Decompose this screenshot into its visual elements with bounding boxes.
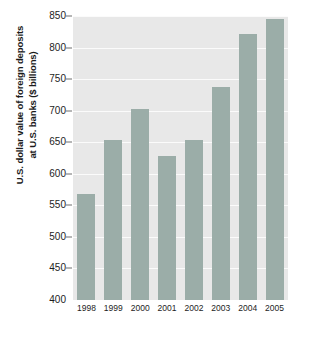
y-tick-mark <box>66 110 72 111</box>
x-tick-label: 2004 <box>238 303 257 313</box>
bar <box>212 87 230 300</box>
y-tick-mark <box>66 79 72 80</box>
y-tick-label: 400 <box>20 295 66 305</box>
bar <box>77 194 95 300</box>
x-tick-label: 2001 <box>158 303 177 313</box>
bar <box>158 156 176 300</box>
y-tick-mark <box>66 205 72 206</box>
y-tick-mark <box>66 173 72 174</box>
bar <box>239 34 257 300</box>
y-tick-mark <box>66 16 72 17</box>
plot-area <box>73 16 288 300</box>
bar <box>104 140 122 300</box>
y-tick-label: 550 <box>20 200 66 210</box>
bar <box>131 109 149 300</box>
x-tick-label: 2002 <box>184 303 203 313</box>
bar <box>266 19 284 300</box>
x-tick-label: 2000 <box>131 303 150 313</box>
y-tick-label: 600 <box>20 169 66 179</box>
y-axis-ticks <box>66 16 73 300</box>
y-axis-labels: 400450500550600650700750800850 <box>0 16 66 300</box>
x-tick-label: 1998 <box>77 303 96 313</box>
bars-layer <box>73 16 288 300</box>
y-tick-mark <box>66 268 72 269</box>
x-tick-label: 1999 <box>104 303 123 313</box>
bar <box>185 140 203 300</box>
y-tick-mark <box>66 47 72 48</box>
y-tick-label: 500 <box>20 232 66 242</box>
x-tick-label: 2005 <box>265 303 284 313</box>
y-tick-mark <box>66 142 72 143</box>
y-tick-label: 700 <box>20 106 66 116</box>
y-tick-label: 750 <box>20 74 66 84</box>
bar-chart-figure: U.S. dollar value of foreign deposits at… <box>0 0 311 341</box>
x-axis-labels: 19981999200020012002200320042005 <box>73 303 288 319</box>
y-tick-label: 850 <box>20 11 66 21</box>
y-tick-mark <box>66 236 72 237</box>
y-tick-label: 800 <box>20 43 66 53</box>
x-tick-label: 2003 <box>211 303 230 313</box>
y-tick-label: 650 <box>20 137 66 147</box>
y-tick-label: 450 <box>20 263 66 273</box>
